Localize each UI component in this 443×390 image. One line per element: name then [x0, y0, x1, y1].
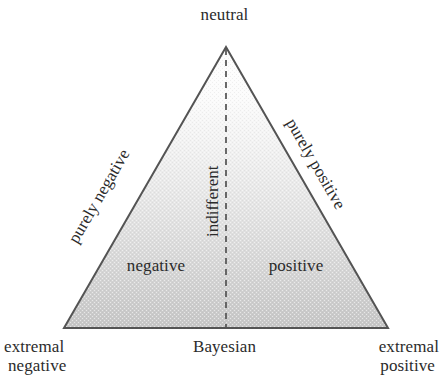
label-extremal-negative-line2: negative: [4, 356, 66, 375]
label-bayesian-text: Bayesian: [193, 337, 256, 356]
label-negative-region: negative: [86, 256, 226, 275]
label-positive-region-text: positive: [269, 256, 324, 275]
label-neutral: neutral: [0, 5, 443, 24]
label-neutral-text: neutral: [201, 5, 249, 24]
label-indifferent-text: indifferent: [203, 166, 223, 237]
label-negative-region-text: negative: [127, 256, 185, 275]
label-extremal-positive-line1: extremal: [379, 337, 439, 356]
label-bayesian: Bayesian: [0, 337, 443, 356]
label-extremal-positive: extremal positive: [379, 337, 439, 376]
label-extremal-positive-line2: positive: [379, 356, 439, 375]
bayesian-preference-triangle-figure: neutral purely negative purely positive …: [0, 0, 443, 390]
label-positive-region: positive: [226, 256, 366, 275]
